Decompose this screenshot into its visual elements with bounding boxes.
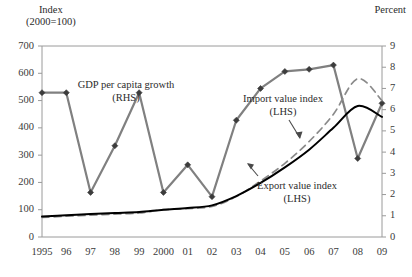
left-axis-title-line2: (2000=100) [26, 16, 76, 28]
series-label-gdp: GDP per capita growth (RHS) [62, 79, 190, 104]
series-label-export-line1: Export value index [257, 180, 337, 191]
y-axis-right-tick-label: 8 [390, 61, 410, 72]
y-axis-right-tick-label: 2 [390, 188, 410, 199]
right-axis-title: Percent [375, 4, 407, 16]
y-axis-left-tick-label: 200 [2, 176, 34, 187]
left-axis-title-line1: Index [26, 4, 76, 16]
axis-tick-marks [38, 46, 386, 237]
y-axis-right-tick-label: 5 [390, 124, 410, 135]
y-axis-right-tick-label: 7 [390, 82, 410, 93]
y-axis-left-tick-label: 600 [2, 67, 34, 78]
y-axis-left-tick-label: 500 [2, 94, 34, 105]
series-label-gdp-line1: GDP per capita growth [78, 79, 175, 90]
series-label-export: Export value index (LHS) [247, 180, 347, 205]
series-label-import-line2: (LHS) [232, 106, 334, 119]
y-axis-right-tick-label: 1 [390, 209, 410, 220]
y-axis-left-tick-label: 0 [2, 231, 34, 242]
y-axis-right-tick-label: 6 [390, 103, 410, 114]
y-axis-right-tick-label: 3 [390, 167, 410, 178]
plot-frame [42, 46, 382, 237]
data-point-marker [330, 62, 336, 68]
y-axis-right-tick-label: 0 [390, 231, 410, 242]
series-label-import: Import value index (LHS) [232, 93, 334, 118]
y-axis-left-tick-label: 300 [2, 149, 34, 160]
data-point-marker [39, 90, 45, 96]
chart-plot-area [0, 0, 412, 277]
series-label-import-line1: Import value index [243, 93, 323, 104]
x-axis-tick-label: 09 [365, 246, 399, 257]
data-point-marker [306, 66, 312, 72]
annotation-arrows [247, 120, 303, 176]
chart-container: Index (2000=100) Percent 010020030040050… [0, 0, 412, 277]
y-axis-right-tick-label: 4 [390, 146, 410, 157]
y-axis-left-tick-label: 700 [2, 40, 34, 51]
left-axis-title: Index (2000=100) [26, 4, 76, 28]
series-label-gdp-line2: (RHS) [62, 92, 190, 105]
y-axis-left-tick-label: 100 [2, 203, 34, 214]
y-axis-left-tick-label: 400 [2, 121, 34, 132]
series-label-export-line2: (LHS) [247, 193, 347, 206]
y-axis-right-tick-label: 9 [390, 40, 410, 51]
